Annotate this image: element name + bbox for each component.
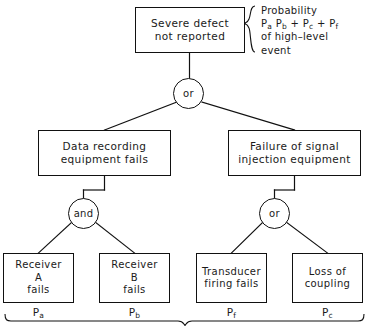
annotation-line4: event [261, 44, 369, 57]
annotation-line3: of high–level [261, 30, 369, 43]
annotation-formula: Pa Pb + Pc + Pf [261, 17, 369, 30]
mid-left-line1: Data recording [63, 140, 147, 153]
or-gate-top-label: or [183, 88, 194, 99]
mid-left-line2: equipment fails [61, 153, 149, 166]
intermediate-event-data-recording: Data recording equipment fails [38, 130, 171, 176]
leaf3-line1: Transducer [202, 266, 261, 279]
leaf1-line3: fails [27, 284, 49, 297]
leaf2-line3: fails [123, 284, 145, 297]
edge-or2-to-leaf3 [232, 222, 264, 253]
edge-or-to-left [105, 102, 178, 130]
and-gate-left-label: and [74, 208, 94, 219]
probability-annotation: Probability Pa Pb + Pc + Pf of high–leve… [261, 4, 369, 57]
top-event-box: Severe defect not reported [135, 7, 245, 53]
leaf1-line2: A [35, 272, 42, 285]
basic-event-transducer-firing: Transducer firing fails [196, 253, 267, 303]
edge-and-to-leaf2 [95, 222, 135, 253]
leaf1-line1: Receiver [15, 259, 61, 272]
basic-event-loss-of-coupling: Loss of coupling [292, 253, 363, 303]
basic-event-receiver-b: Receiver B fails [99, 253, 170, 303]
leaf3-line2: firing fails [204, 278, 258, 291]
or-gate-top: or [173, 78, 204, 109]
or-gate-right-label: or [269, 208, 280, 219]
mid-right-line2: injection equipment [238, 153, 351, 166]
annotation-brace-icon [245, 6, 256, 52]
leaf4-line2: coupling [305, 278, 351, 291]
top-event-line1: Severe defect [151, 17, 229, 30]
fault-tree-diagram: Severe defect not reported Probability P… [0, 0, 370, 326]
intermediate-event-signal-injection: Failure of signal injection equipment [228, 130, 361, 176]
or-gate-right: or [259, 198, 290, 229]
leaf4-line1: Loss of [309, 266, 347, 279]
annotation-line1: Probability [261, 4, 369, 17]
top-event-line2: not reported [155, 30, 226, 43]
probability-label-pb: Pb [99, 306, 170, 318]
leaf2-line2: B [131, 272, 138, 285]
probability-label-pf: Pf [196, 306, 267, 318]
edge-or2-to-leaf4 [286, 222, 328, 253]
edge-and-to-leaf1 [39, 222, 73, 253]
basic-event-receiver-a: Receiver A fails [3, 253, 74, 303]
leaf2-line1: Receiver [111, 259, 157, 272]
mid-right-line1: Failure of signal [250, 140, 339, 153]
probability-label-pc: Pc [292, 306, 363, 318]
probability-label-pa: Pa [3, 306, 74, 318]
edge-or-to-right [202, 102, 295, 130]
and-gate-left: and [68, 198, 99, 229]
